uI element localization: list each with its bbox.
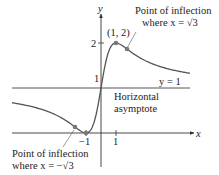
asymptote-caption-line2: asymptote bbox=[114, 103, 157, 114]
min-point-dot bbox=[84, 131, 89, 136]
asymptote-equation: y = 1 bbox=[159, 76, 181, 87]
tick-label-xm1: −1 bbox=[79, 136, 90, 147]
inflection-pos-caption-line2: where x = √3 bbox=[142, 17, 198, 28]
tick-label-y2: 2 bbox=[91, 38, 96, 49]
max-point-label: (1, 2) bbox=[107, 27, 130, 39]
x-axis-label: x bbox=[195, 128, 201, 139]
inflection-neg-caption-line1: Point of inflection bbox=[12, 148, 89, 159]
tick-label-x1: 1 bbox=[113, 136, 118, 147]
max-point-dot bbox=[114, 41, 119, 46]
inflection-neg-dot bbox=[73, 125, 78, 130]
tick-label-y1: 1 bbox=[94, 73, 99, 84]
asymptote-caption-line1: Horizontal bbox=[114, 91, 159, 102]
y-axis-label: y bbox=[97, 3, 103, 14]
inflection-pos-dot bbox=[125, 47, 130, 52]
function-graph: y x (1, 2) 2 1 1 −1 y = 1 Horizontal asy… bbox=[0, 0, 219, 175]
inflection-pos-caption-line1: Point of inflection bbox=[135, 5, 212, 16]
inflection-neg-caption-line2: where x = −√3 bbox=[12, 160, 74, 171]
